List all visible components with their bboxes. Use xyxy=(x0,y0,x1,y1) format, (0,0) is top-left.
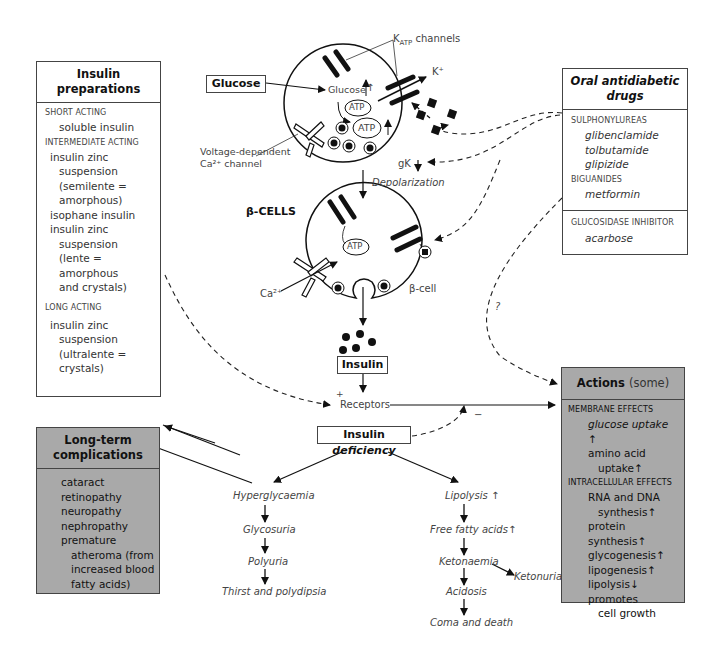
complication-item: neuropathy xyxy=(45,504,155,519)
gk-action-line xyxy=(428,115,560,162)
complication-item: atheroma (from xyxy=(45,548,155,563)
sulphonylurea-action-line xyxy=(441,112,562,134)
question-mark: ? xyxy=(495,301,500,312)
category-label: SHORT ACTING xyxy=(45,108,152,117)
lipolysis-label: Lipolysis ↑ xyxy=(445,490,499,501)
atp-small-label: ATP xyxy=(349,102,364,112)
insulin-preparations-panel: Insulin preparations SHORT ACTING solubl… xyxy=(36,61,161,397)
action-item: glucose uptake ↑ xyxy=(568,417,680,446)
drug-item: insulin zinc xyxy=(45,222,152,237)
action-item: protein synthesis↑ xyxy=(568,519,680,548)
gk-label: gK xyxy=(398,158,411,169)
katp-channel-icon xyxy=(325,58,337,75)
k-plus-label: K⁺ xyxy=(432,66,444,77)
minus-sign: − xyxy=(474,409,482,420)
actions-panel: Actions (some) MEMBRANE EFFECTS glucose … xyxy=(561,367,685,603)
glucose-inner-label: Glucose xyxy=(328,84,366,95)
category-label: SULPHONYLUREAS xyxy=(571,116,679,125)
atp-large-label: ATP xyxy=(358,122,375,133)
complication-item: cataract xyxy=(45,475,155,490)
panel-title: Long-term complications xyxy=(37,428,159,469)
drug-item: crystals) xyxy=(45,361,152,376)
complication-item: increased blood xyxy=(45,562,155,577)
drug-item: (ultralente = xyxy=(45,347,152,362)
action-item: cell growth xyxy=(568,606,680,621)
complication-item: retinopathy xyxy=(45,490,155,505)
free-fatty-acids-label: Free fatty acids↑ xyxy=(430,524,516,535)
drug-item: metformin xyxy=(571,187,679,202)
action-item: lipolysis↓ xyxy=(568,577,680,592)
drug-item: acarbose xyxy=(571,231,679,246)
katp-channel-icon xyxy=(388,77,413,88)
insulin-deficiency-box: Insulin deficiency xyxy=(317,426,411,444)
ketonaemia-label: Ketonaemia xyxy=(439,556,499,567)
acidosis-label: Acidosis xyxy=(446,586,487,597)
panel-title: Oral antidiabetic drugs xyxy=(563,69,687,110)
glycosuria-label: Glycosuria xyxy=(243,524,296,535)
drug-item: suspension xyxy=(45,332,152,347)
drug-item: (semilente = xyxy=(45,179,152,194)
vd-channel-label: Voltage-dependent Ca²⁺ channel xyxy=(200,146,290,170)
action-item: synthesis↑ xyxy=(568,505,680,520)
category-label: INTERMEDIATE ACTING xyxy=(45,138,152,147)
ca2-label: Ca²⁺ xyxy=(260,288,282,299)
glucose-box: Glucose xyxy=(206,75,266,93)
drug-item: isophane insulin xyxy=(45,208,152,223)
insulin-deficiency-label-italic: deficiency xyxy=(332,444,395,457)
panel-title: Actions (some) xyxy=(562,368,684,400)
actions-title-suffix: (some) xyxy=(629,376,669,390)
drug-item: and crystals) xyxy=(45,280,152,295)
complications-panel: Long-term complications cataract retinop… xyxy=(36,427,160,594)
glucose-up-arrow: ↑ xyxy=(366,82,374,93)
action-item: uptake↑ xyxy=(568,461,680,476)
category-label: INTRACELLULAR EFFECTS xyxy=(568,478,680,487)
katp-sub: ATP xyxy=(400,39,413,47)
complication-item: premature xyxy=(45,533,155,548)
inhibition-line xyxy=(412,406,464,436)
drug-item: insulin zinc xyxy=(45,318,152,333)
insulin-box: Insulin xyxy=(337,356,388,374)
thirst-label: Thirst and polydipsia xyxy=(222,586,326,597)
category-label: BIGUANIDES xyxy=(571,175,679,184)
sulphonylurea-molecule-icon xyxy=(416,98,457,135)
plus-sign: + xyxy=(336,389,344,399)
drug-item: amorphous xyxy=(45,266,152,281)
category-label: MEMBRANE EFFECTS xyxy=(568,405,680,414)
drug-item: suspension xyxy=(45,237,152,252)
atp-cell2-label: ATP xyxy=(347,241,362,251)
action-item: RNA and DNA xyxy=(568,490,680,505)
beta-cell-bottom xyxy=(281,183,431,354)
action-item: glycogenesis↑ xyxy=(568,548,680,563)
action-item: lipogenesis↑ xyxy=(568,563,680,578)
drug-item: suspension xyxy=(45,164,152,179)
depolarization-label: Depolarization xyxy=(372,177,445,188)
category-label: GLUCOSIDASE INHIBITOR xyxy=(571,218,679,227)
actions-title: Actions xyxy=(577,376,625,390)
polyuria-label: Polyuria xyxy=(248,556,288,567)
drug-item: soluble insulin xyxy=(45,120,152,135)
oral-antidiabetic-panel: Oral antidiabetic drugs SULPHONYLUREAS g… xyxy=(562,68,688,255)
complication-item: fatty acids) xyxy=(45,577,155,592)
drug-item: tolbutamide xyxy=(571,143,679,158)
drug-item: insulin zinc xyxy=(45,150,152,165)
katp-suffix: channels xyxy=(412,33,460,44)
vd-channel-line1: Voltage-dependent xyxy=(200,146,290,158)
drug-item: glipizide xyxy=(571,157,679,172)
insulin-molecules xyxy=(339,330,376,354)
vd-channel-line2: Ca²⁺ channel xyxy=(200,158,290,170)
coma-death-label: Coma and death xyxy=(430,617,513,628)
action-item: amino acid xyxy=(568,446,680,461)
drug-item: glibenclamide xyxy=(571,128,679,143)
receptors-label: Receptors xyxy=(340,399,390,410)
metformin-action-line xyxy=(487,198,562,384)
insulin-deficiency-label: Insulin xyxy=(343,428,385,441)
complications-arrow xyxy=(150,445,252,483)
category-label: LONG ACTING xyxy=(45,303,152,312)
action-item: promotes xyxy=(568,592,680,607)
panel-title: Insulin preparations xyxy=(37,62,160,103)
calcium-channel-icon xyxy=(294,122,324,157)
beta-cells-title: β-CELLS xyxy=(246,205,296,218)
hyperglycaemia-label: Hyperglycaemia xyxy=(233,490,315,501)
katp-channels-label: KATP channels xyxy=(393,33,460,47)
beta-cell-top xyxy=(256,40,457,198)
